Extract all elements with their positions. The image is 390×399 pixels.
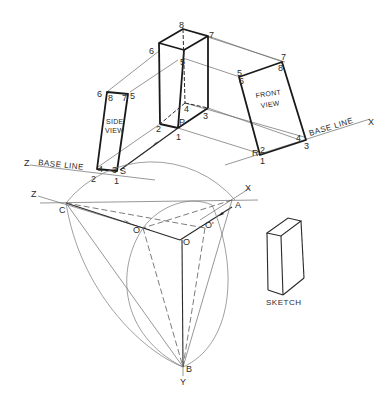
front-vertex-6: 6 xyxy=(239,76,244,86)
point-o-prime-label: O' xyxy=(205,220,214,230)
side-vertex-4: 4 xyxy=(98,164,103,174)
base-line-left-z-label: Z xyxy=(24,158,30,168)
box-vertex-4: 4 xyxy=(184,104,189,114)
side-vertex-2: 2 xyxy=(91,174,96,184)
base-line-right-x-label: X xyxy=(368,117,374,127)
front-view-caption-2: VIEW xyxy=(260,99,280,109)
side-view-caption-1: SIDE xyxy=(106,118,124,125)
box-vertex-5: 5 xyxy=(180,57,185,67)
side-vertex-6: 6 xyxy=(97,89,102,99)
box-vertex-8: 8 xyxy=(179,20,184,30)
point-o-label: O xyxy=(183,237,190,247)
box-vertex-1: 1 xyxy=(176,132,181,142)
front-view-caption-1: FRONT xyxy=(255,88,282,99)
box-vertex-6: 6 xyxy=(149,46,154,56)
axonometric-drawing: 8 7 6 5 4 3 2 P 1 6 8 7 5 SIDE VIEW 4 2 … xyxy=(0,0,390,399)
side-vertex-1: 1 xyxy=(114,176,119,186)
point-c-label: C xyxy=(59,205,66,215)
axis-x-label: X xyxy=(245,183,251,193)
side-vertex-3: 3 xyxy=(112,165,117,175)
front-vertex-2: 2 xyxy=(260,145,265,155)
front-vertex-4: 4 xyxy=(296,133,301,143)
side-vertex-s: S xyxy=(120,166,126,176)
side-vertex-8: 8 xyxy=(108,93,113,103)
box-vertex-2: 2 xyxy=(156,124,161,134)
arrow-head-icon xyxy=(152,141,158,147)
box-vertex-7: 7 xyxy=(209,30,214,40)
side-view-caption-2: VIEW xyxy=(105,127,124,134)
projection-lines xyxy=(30,29,370,180)
sketch-caption: SKETCH xyxy=(266,298,301,307)
construction-geometry xyxy=(38,162,258,376)
box-vertex-3: 3 xyxy=(203,111,208,121)
box-vertex-p: P xyxy=(179,117,185,127)
base-line-right-label: BASE LINE xyxy=(308,116,354,138)
front-vertex-3: 3 xyxy=(304,141,309,151)
point-b-label: B xyxy=(186,364,192,374)
point-o-left-label: O xyxy=(133,225,140,235)
side-vertex-7: 7 xyxy=(122,93,127,103)
axis-z-label: Z xyxy=(31,189,37,199)
point-a-label: A xyxy=(235,200,241,210)
front-vertex-8: 8 xyxy=(278,63,283,73)
side-vertex-5: 5 xyxy=(130,91,135,101)
axis-y-label: Y xyxy=(180,377,186,387)
sketch-box xyxy=(267,218,304,295)
front-vertex-7: 7 xyxy=(281,52,286,62)
base-line-left-label: BASE LINE xyxy=(38,158,85,172)
front-vertex-r: R xyxy=(252,148,259,158)
direction-arrow-line xyxy=(120,128,178,170)
front-vertex-1: 1 xyxy=(260,156,265,166)
